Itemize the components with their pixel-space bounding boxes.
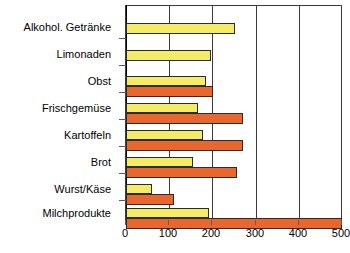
bar-obst-yellow [126, 76, 206, 86]
bar-kartoffeln-yellow [126, 130, 203, 140]
x-tick-label: 500 [332, 227, 350, 239]
bar-frischgemuese-orange [126, 113, 243, 124]
bar-milchprodukte-yellow [126, 208, 209, 218]
category-label: Obst [88, 76, 111, 87]
category-label: Limonaden [57, 49, 111, 60]
bar-wurst-kaese-orange [126, 194, 174, 205]
category-axis-labels: Alkohol. Getränke Limonaden Obst Frischg… [0, 5, 118, 220]
category-label: Milchprodukte [43, 208, 111, 219]
x-tick-mark [211, 220, 212, 225]
category-tick [119, 65, 126, 66]
bar-limonaden-yellow [126, 50, 211, 61]
category-tick [119, 38, 126, 39]
category-tick [119, 200, 126, 201]
category-tick [119, 173, 126, 174]
category-tick [119, 146, 126, 147]
category-label: Kartoffeln [64, 130, 111, 141]
x-tick-label: 0 [122, 227, 128, 239]
x-tick-label: 300 [246, 227, 264, 239]
x-tick-label: 200 [202, 227, 220, 239]
category-label: Alkohol. Getränke [24, 22, 111, 33]
bar-alkohol-getraenke-yellow [126, 23, 235, 34]
bar-brot-orange [126, 167, 237, 178]
x-tick-mark [168, 220, 169, 225]
bar-kartoffeln-orange [126, 140, 243, 151]
x-tick-mark [255, 220, 256, 225]
category-label: Frischgemüse [42, 103, 111, 114]
x-tick-mark [341, 220, 342, 225]
category-label: Wurst/Käse [54, 184, 111, 195]
x-tick-mark [298, 220, 299, 225]
bar-frischgemuese-yellow [126, 103, 198, 113]
x-tick-label: 100 [159, 227, 177, 239]
gridline-400 [299, 6, 300, 219]
gridline-300 [256, 6, 257, 219]
plot-area [125, 5, 342, 220]
category-tick [119, 119, 126, 120]
bar-brot-yellow [126, 157, 193, 167]
category-tick [119, 92, 126, 93]
x-axis: 0 100 200 300 400 500 [125, 220, 342, 253]
category-label: Brot [91, 157, 111, 168]
x-tick-label: 400 [289, 227, 307, 239]
bar-obst-orange [126, 86, 213, 97]
bar-wurst-kaese-yellow [126, 184, 152, 194]
x-tick-mark [125, 220, 126, 225]
